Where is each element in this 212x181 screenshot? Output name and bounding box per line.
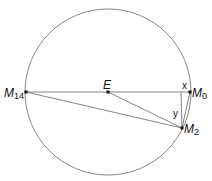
label-m0: M0 xyxy=(192,86,207,101)
label-x: x xyxy=(182,80,187,91)
label-y: y xyxy=(173,108,178,119)
chord-m14-m2 xyxy=(26,92,182,128)
radius-e-m2 xyxy=(108,92,182,128)
segment-y xyxy=(181,92,182,128)
point-m14 xyxy=(25,91,28,94)
label-m2: M2 xyxy=(184,122,199,137)
label-e: E xyxy=(103,78,112,92)
circle-diagram: E M14 M0 M2 x y xyxy=(0,0,212,181)
label-m14: M14 xyxy=(4,86,24,101)
